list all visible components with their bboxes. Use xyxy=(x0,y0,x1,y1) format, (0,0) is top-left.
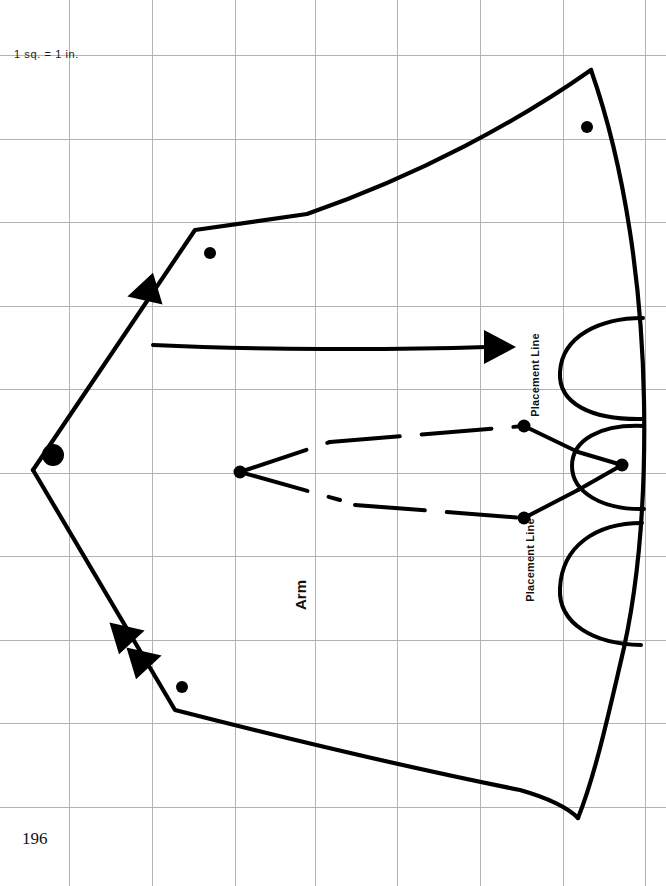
dot-upper-right xyxy=(581,121,593,133)
placement-line-label-bottom: Placement Line xyxy=(524,518,536,602)
dot-upper-left xyxy=(204,247,216,259)
finger-top xyxy=(560,318,643,419)
pattern-artwork xyxy=(0,0,666,886)
notch-marks xyxy=(102,268,171,685)
arm-outline-lower xyxy=(33,470,578,818)
placement-line-label-top: Placement Line xyxy=(529,333,541,417)
dot-lower-left xyxy=(176,681,188,693)
grainline-arrow xyxy=(153,330,516,364)
finger-middle xyxy=(572,426,644,509)
page-number: 196 xyxy=(22,829,48,849)
pattern-page: 1 sq. = 1 in. Arm Placement Line Placeme… xyxy=(0,0,666,886)
dot-large-left xyxy=(42,444,64,466)
dot-right-pivot xyxy=(616,459,629,472)
piece-label-arm: Arm xyxy=(292,580,309,610)
arm-outline-right-edge xyxy=(578,70,644,818)
scale-note: 1 sq. = 1 in. xyxy=(14,48,79,60)
arm-outline-upper xyxy=(33,70,591,470)
placement-guide-lines xyxy=(240,426,622,518)
dot-center-pivot xyxy=(234,466,247,479)
dot-placement-top xyxy=(518,420,531,433)
